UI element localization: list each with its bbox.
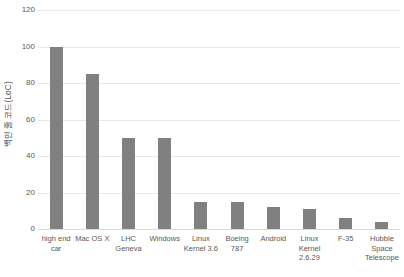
x-tick-label: Boeing 787 (219, 231, 255, 277)
bar-slot (291, 10, 327, 229)
x-tick-label: Linux Kernel 2.6.29 (291, 231, 327, 277)
bar-slot (364, 10, 400, 229)
bar-slot (219, 10, 255, 229)
x-tick-label: LHC Geneva (110, 231, 146, 277)
x-tick-label: high end car (38, 231, 74, 277)
bar (303, 209, 316, 229)
x-tick-label: F-35 (328, 231, 364, 277)
y-axis-title: 백만 줄 코드(LoC) (0, 0, 16, 229)
bar (231, 202, 244, 229)
y-axis-tick-labels: 020406080100120 (16, 0, 38, 240)
y-tick-label-120: 120 (22, 6, 35, 14)
bar (339, 218, 352, 229)
bars-container (38, 10, 400, 229)
y-tick-label-0: 0 (31, 225, 35, 233)
y-tick-label-100: 100 (22, 43, 35, 51)
x-tick-label: Windows (147, 231, 183, 277)
bar-slot (147, 10, 183, 229)
y-tick-label-20: 20 (26, 189, 35, 197)
bar (194, 202, 207, 229)
bar-slot (38, 10, 74, 229)
x-axis-tick-labels: high end carMac OS XLHC GenevaWindowsLin… (38, 231, 400, 277)
gridline-0 (38, 229, 400, 230)
bar (375, 222, 388, 229)
y-tick-label-60: 60 (26, 116, 35, 124)
x-tick-label: Mac OS X (74, 231, 110, 277)
x-tick-label: Android (255, 231, 291, 277)
bar (122, 138, 135, 229)
plot-area (38, 10, 400, 229)
bar (50, 47, 63, 230)
x-tick-label: Linux Kernel 3.6 (183, 231, 219, 277)
bar-slot (328, 10, 364, 229)
bar (158, 138, 171, 229)
y-tick-label-80: 80 (26, 79, 35, 87)
bar (86, 74, 99, 229)
bar-slot (183, 10, 219, 229)
bar-slot (110, 10, 146, 229)
bar-slot (255, 10, 291, 229)
x-tick-label: Hubble Space Telescope (364, 231, 400, 277)
y-axis-title-text: 백만 줄 코드(LoC) (4, 82, 13, 148)
y-tick-label-40: 40 (26, 152, 35, 160)
bar-chart: 백만 줄 코드(LoC) 020406080100120 high end ca… (0, 0, 404, 277)
bar (267, 207, 280, 229)
bar-slot (74, 10, 110, 229)
